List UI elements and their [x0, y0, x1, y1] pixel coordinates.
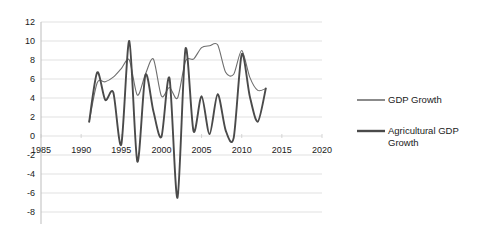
line-chart: 121086420-2-4-6-8 1985199019952000200520…	[0, 0, 490, 236]
x-tick-label: 2010	[232, 145, 252, 155]
x-tick-label: 2015	[272, 145, 292, 155]
x-tick-label: 1995	[111, 145, 131, 155]
x-tick-label: 2020	[312, 145, 332, 155]
chart-legend: GDP GrowthAgricultural GDPGrowth	[357, 94, 459, 148]
chart-container: 121086420-2-4-6-8 1985199019952000200520…	[0, 0, 490, 236]
y-axis-tick-labels: 121086420-2-4-6-8	[25, 17, 35, 217]
y-tick-label: 8	[30, 55, 35, 65]
x-tick-label: 1990	[71, 145, 91, 155]
y-tick-label: 4	[30, 93, 35, 103]
y-tick-label: -4	[27, 169, 35, 179]
y-tick-label: 12	[25, 17, 35, 27]
y-tick-label: -6	[27, 188, 35, 198]
y-tick-label: 0	[30, 131, 35, 141]
legend-label-line2: Growth	[388, 137, 419, 148]
y-tick-label: -8	[27, 207, 35, 217]
legend-label: GDP Growth	[388, 94, 442, 105]
y-tick-label: 6	[30, 74, 35, 84]
legend-label: Agricultural GDP	[388, 125, 459, 136]
y-tick-label: 10	[25, 36, 35, 46]
y-tick-label: 2	[30, 112, 35, 122]
x-tick-label: 1985	[31, 145, 51, 155]
x-tick-label: 2005	[192, 145, 212, 155]
x-tick-label: 2000	[151, 145, 171, 155]
